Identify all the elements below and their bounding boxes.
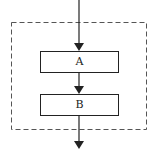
entry-arrowhead-icon	[74, 43, 84, 51]
a-to-b-arrowhead-icon	[74, 86, 84, 94]
node-a-label: A	[40, 55, 119, 68]
flowchart	[0, 0, 153, 154]
exit-arrowhead-icon	[74, 141, 84, 149]
node-b-label: B	[40, 98, 119, 111]
